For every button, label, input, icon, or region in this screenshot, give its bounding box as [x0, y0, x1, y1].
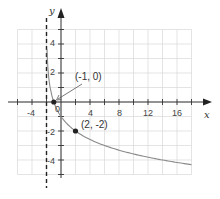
origin-label: 0 — [55, 104, 60, 114]
tick-label-y-2: 2 — [50, 67, 55, 77]
point-2-minus2 — [73, 128, 78, 133]
tick-label-x-minus4: -4 — [27, 108, 35, 118]
tick-label-x-16: 16 — [172, 108, 182, 118]
point-label-minus1-0: (-1, 0) — [75, 71, 102, 82]
tick-label-y-minus4: -4 — [47, 156, 55, 166]
tick-label-y-4: 4 — [50, 38, 55, 48]
tick-label-x-12: 12 — [143, 108, 153, 118]
tick-label-x-8: 8 — [117, 108, 122, 118]
x-axis-label: x — [204, 109, 210, 120]
x-axis-arrow-icon — [203, 99, 212, 106]
annotation-arrow — [57, 84, 83, 100]
x-axis — [8, 99, 212, 106]
y-axis — [58, 8, 65, 178]
y-axis-label: y — [48, 5, 55, 16]
tick-label-y-minus2: -2 — [47, 127, 55, 137]
log-function-graph: y x 0 -4 4 8 12 16 4 2 -2 -4 (-1, 0) (2,… — [0, 0, 220, 199]
point-label-2-minus2: (2, -2) — [81, 119, 108, 130]
y-axis-arrow-icon — [58, 8, 65, 18]
tick-label-x-4: 4 — [88, 108, 93, 118]
